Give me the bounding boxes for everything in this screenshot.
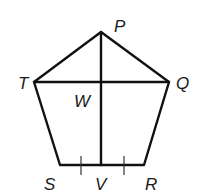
label-R: R	[145, 175, 157, 194]
label-S: S	[44, 175, 56, 194]
label-T: T	[18, 74, 30, 93]
label-V: V	[95, 175, 108, 194]
label-W: W	[74, 92, 92, 111]
pentagon-diagram: P T Q W S V R	[0, 0, 201, 195]
label-Q: Q	[176, 74, 189, 93]
label-P: P	[114, 17, 126, 36]
